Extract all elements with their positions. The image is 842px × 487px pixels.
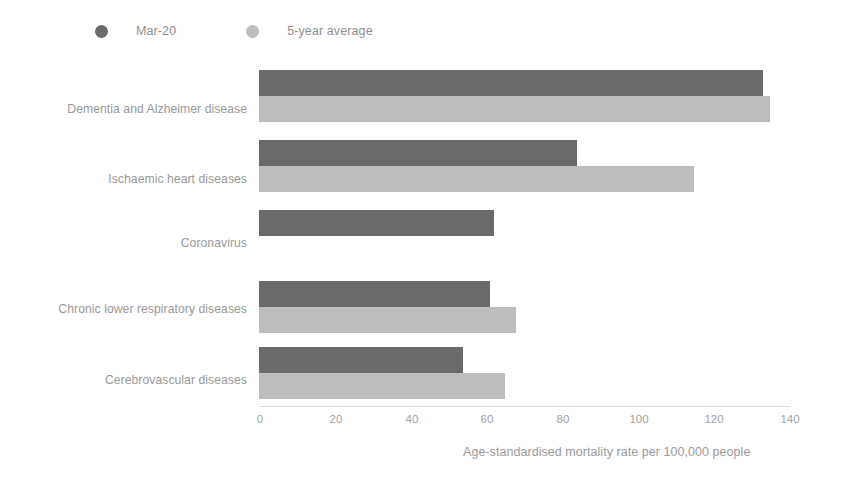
bar-5-year-average <box>259 373 505 399</box>
x-axis-tick-label: 0 <box>257 413 263 425</box>
plot-area: Dementia and Alzheimer disease Ischaemic… <box>0 0 842 487</box>
bar-mar-20 <box>259 70 763 96</box>
category-label: Chronic lower respiratory diseases <box>58 302 247 316</box>
x-axis-tick-label: 140 <box>780 413 799 425</box>
x-axis-tick-label: 20 <box>330 413 343 425</box>
x-axis-title: Age-standardised mortality rate per 100,… <box>463 445 750 459</box>
category-label-wrap: Chronic lower respiratory diseases <box>0 302 247 318</box>
bar-5-year-average <box>259 166 694 192</box>
bar-chart: Mar-20 5-year average Dementia and Alzhe… <box>0 0 842 487</box>
category-label-wrap: Dementia and Alzheimer disease <box>0 102 247 118</box>
bar-mar-20 <box>259 347 463 373</box>
bar-5-year-average <box>259 96 770 122</box>
x-axis-tick-label: 120 <box>704 413 723 425</box>
category-label-wrap: Cerebrovascular diseases <box>0 373 247 389</box>
category-label: Coronavirus <box>181 236 247 250</box>
category-label-wrap: Coronavirus <box>0 236 247 252</box>
bar-5-year-average <box>259 307 516 333</box>
category-label-wrap: Ischaemic heart diseases <box>0 172 247 188</box>
bar-mar-20 <box>259 140 577 166</box>
x-axis-line <box>259 406 790 407</box>
bar-mar-20 <box>259 281 490 307</box>
x-axis-tick-label: 80 <box>557 413 570 425</box>
x-axis-tick-label: 100 <box>629 413 648 425</box>
category-label: Dementia and Alzheimer disease <box>67 102 247 116</box>
x-axis-tick-label: 60 <box>481 413 494 425</box>
bar-mar-20 <box>259 210 494 236</box>
category-label: Cerebrovascular diseases <box>105 373 247 387</box>
x-axis-tick-label: 40 <box>406 413 419 425</box>
category-label: Ischaemic heart diseases <box>108 172 247 186</box>
